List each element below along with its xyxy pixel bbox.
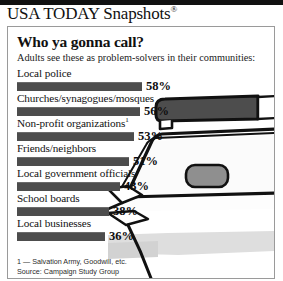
- bar-line: 36%: [17, 231, 267, 241]
- page-title: Who ya gonna call?: [17, 33, 267, 51]
- bar-fill: [17, 207, 109, 216]
- table-row: Churches/synagogues/mosques 56%: [17, 92, 267, 117]
- table-row: School boards 38%: [17, 192, 267, 217]
- bar-line: 53%: [17, 131, 267, 141]
- bar-line: 38%: [17, 206, 267, 216]
- bar-line: 56%: [17, 106, 267, 116]
- bar-value: 43%: [124, 180, 149, 192]
- bar-fill: [17, 107, 140, 116]
- bar-value: 36%: [109, 230, 134, 242]
- source-credit: Source: Campaign Study Group for Pew Par…: [17, 268, 135, 279]
- chart-panel: Who ya gonna call? Adults see these as p…: [7, 26, 275, 279]
- bar-fill: [17, 157, 129, 166]
- table-row: Friends/neighbors 51%: [17, 142, 267, 167]
- chart-content: Who ya gonna call? Adults see these as p…: [17, 33, 267, 242]
- bar-label: Churches/synagogues/mosques: [17, 92, 267, 105]
- masthead-brand: USA TODAY Snapshots: [7, 4, 170, 23]
- footnote-text: 1 — Salvation Army, Goodwill, etc.: [17, 257, 127, 266]
- bar-value: 51%: [133, 155, 158, 167]
- bar-fill: [17, 82, 142, 91]
- bar-fill: [17, 232, 105, 241]
- table-row: Local police 58%: [17, 67, 267, 92]
- page-subtitle: Adults see these as problem-solvers in t…: [17, 52, 267, 64]
- masthead: USA TODAY Snapshots®: [7, 4, 277, 24]
- bar-value: 58%: [146, 80, 171, 92]
- bar-chart: Local police 58% Churches/synagogues/mos…: [17, 67, 267, 242]
- table-row: Local businesses 36%: [17, 217, 267, 242]
- bar-label: School boards: [17, 192, 267, 205]
- bar-line: 43%: [17, 181, 267, 191]
- bar-label: Local businesses: [17, 217, 267, 230]
- table-row: Local government officials 43%: [17, 167, 267, 192]
- bar-line: 58%: [17, 81, 267, 91]
- source-line-2: for Pew Partnership for Civic Change: [17, 277, 135, 279]
- bar-line: 51%: [17, 156, 267, 166]
- bar-fill: [17, 132, 134, 141]
- bar-label: Local police: [17, 67, 267, 80]
- bar-value: 38%: [113, 205, 138, 217]
- bar-fill: [17, 182, 120, 191]
- bar-value: 56%: [144, 105, 169, 117]
- table-row: Non-profit organizations1 53%: [17, 117, 267, 142]
- snapshot-infographic: USA TODAY Snapshots®: [0, 0, 283, 281]
- footnote-marker: 1: [125, 116, 128, 124]
- registered-trademark-icon: ®: [170, 4, 177, 14]
- bar-value: 53%: [138, 130, 163, 142]
